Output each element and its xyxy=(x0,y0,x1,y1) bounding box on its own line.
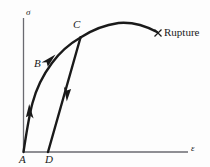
rupture-label: Rupture xyxy=(164,27,199,38)
point-label-a: A xyxy=(19,154,26,165)
x-axis-label: ε xyxy=(191,144,195,153)
rupture-marker-icon xyxy=(155,30,162,37)
stress-strain-figure: σ ε A B C D Rupture xyxy=(0,0,210,167)
y-axis-label: σ xyxy=(26,8,30,17)
point-label-d: D xyxy=(45,154,53,165)
point-label-b: B xyxy=(34,58,41,69)
point-label-c: C xyxy=(73,19,80,30)
unloading-line-c-to-d xyxy=(48,38,81,153)
plastic-curve-c-to-rupture xyxy=(81,23,158,38)
